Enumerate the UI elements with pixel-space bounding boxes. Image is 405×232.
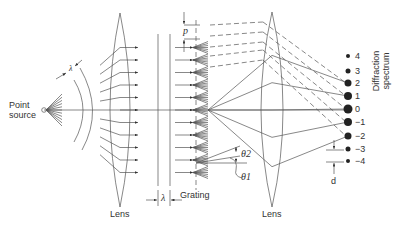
right-lens-label: Lens [262, 209, 282, 219]
period-label: p [183, 26, 188, 36]
diffraction-grating-diagram: Pointsource Lens Lens Grating λ λ p θ2 θ… [0, 0, 405, 232]
spectrum-label-line2: spectrum [381, 53, 391, 90]
order-label: −3 [355, 144, 365, 154]
grating-diffraction-fans [193, 42, 208, 179]
theta1-label: θ1 [241, 172, 251, 182]
order-label: 1 [355, 91, 360, 101]
spectrum-spot-order [346, 159, 350, 163]
spectrum-label-line1: Diffraction [371, 51, 381, 91]
order-label: 0 [355, 104, 360, 114]
left-lens-label: Lens [110, 209, 130, 219]
spectrum-spot-order [344, 105, 353, 114]
wavefront-1 [74, 80, 83, 142]
point-label: Point [9, 100, 30, 110]
order-label: 2 [355, 78, 360, 88]
spectrum-spot-order [345, 133, 352, 140]
grating-label: Grating [180, 190, 210, 200]
wavefront-wavelength-label: λ [69, 64, 72, 74]
right-lens [261, 12, 283, 207]
spectrum-spot-order [346, 147, 351, 152]
spectrum-spot-order [344, 118, 352, 126]
spectrum-spot-order [346, 54, 350, 58]
theta2-label: θ2 [241, 149, 251, 159]
order-label: −1 [355, 117, 365, 127]
order-label: −4 [355, 156, 365, 166]
spectrum-spot-order [345, 80, 352, 87]
focused-beams [208, 22, 348, 167]
point-source-label: Pointsource [9, 100, 36, 120]
order-label: 4 [355, 51, 360, 61]
wavelength-label: λ [161, 193, 165, 203]
spectrum-spots [344, 54, 353, 163]
source-label: source [9, 110, 36, 120]
order-label: −2 [355, 131, 365, 141]
wavefront-2 [80, 68, 93, 150]
spectrum-spot-order [346, 69, 351, 74]
spectrum-label: Diffractionspectrum [371, 42, 391, 100]
order-label: 3 [355, 66, 360, 76]
spectrum-spot-order [344, 92, 352, 100]
spot-spacing-label: d [331, 176, 336, 186]
